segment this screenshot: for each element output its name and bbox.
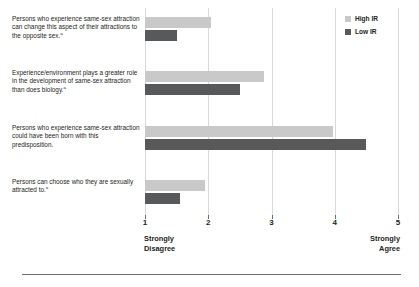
tick-label-4: 4 <box>325 218 345 227</box>
legend-swatch-icon-low-ir <box>345 29 351 35</box>
bar-low-ir <box>145 139 366 150</box>
footnote-marker: a <box>63 85 65 90</box>
legend-label-high-ir: High IR <box>355 15 378 22</box>
bar-high-ir <box>145 17 211 28</box>
axis-anchor-high-line2: Agree <box>370 244 400 254</box>
legend-item-low-ir: Low IR <box>345 26 378 37</box>
axis-anchor-low: Strongly Disagree <box>144 234 175 253</box>
bar-group <box>145 71 398 95</box>
bar-group <box>145 180 398 204</box>
gridline-5 <box>398 8 399 215</box>
bar-high-ir <box>145 71 264 82</box>
category-label-text: Persons can choose who they are sexually… <box>12 178 133 193</box>
axis-anchor-high: Strongly Agree <box>370 234 400 253</box>
tick-label-1: 1 <box>135 218 155 227</box>
footnote-marker: a <box>60 31 62 36</box>
tick-label-2: 2 <box>198 218 218 227</box>
category-label-text: Persons who experience same-sex attracti… <box>12 124 140 148</box>
legend-label-low-ir: Low IR <box>355 28 377 35</box>
bar-low-ir <box>145 30 177 41</box>
plot-area <box>145 8 398 215</box>
bar-group <box>145 126 398 150</box>
footer-rule <box>22 274 401 275</box>
tick-label-5: 5 <box>388 218 408 227</box>
axis-anchor-low-line1: Strongly <box>144 234 175 244</box>
bar-low-ir <box>145 193 180 204</box>
axis-anchor-low-line2: Disagree <box>144 244 175 254</box>
category-label: Experience/environment plays a greater r… <box>12 69 140 94</box>
legend-swatch-icon-high-ir <box>345 16 351 22</box>
axis-anchor-high-line1: Strongly <box>370 234 400 244</box>
legend-item-high-ir: High IR <box>345 13 378 24</box>
chart-legend: High IR Low IR <box>345 13 378 39</box>
bar-high-ir <box>145 126 333 137</box>
footnote-marker: a <box>46 185 48 190</box>
bar-high-ir <box>145 180 205 191</box>
category-label: Persons can choose who they are sexually… <box>12 178 140 195</box>
bar-chart-figure: Persons who experience same-sex attracti… <box>0 0 419 287</box>
bar-low-ir <box>145 84 240 95</box>
category-label: Persons who experience same-sex attracti… <box>12 15 140 40</box>
tick-label-3: 3 <box>262 218 282 227</box>
category-label: Persons who experience same-sex attracti… <box>12 124 140 149</box>
category-label-text: Persons who experience same-sex attracti… <box>12 15 140 39</box>
category-label-text: Experience/environment plays a greater r… <box>12 69 137 93</box>
